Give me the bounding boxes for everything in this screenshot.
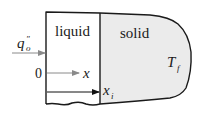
stefan-problem-diagram: liquid solid q ″ o 0 x x i T f (0, 0, 201, 122)
svg-text:q: q (17, 35, 25, 51)
x-axis-label: x (82, 65, 90, 81)
svg-text:o: o (26, 43, 31, 53)
solid-label: solid (120, 25, 150, 41)
svg-text:x: x (102, 82, 110, 98)
liquid-label: liquid (55, 23, 91, 39)
heat-flux-label: q ″ o (17, 34, 31, 53)
origin-label: 0 (35, 66, 42, 81)
